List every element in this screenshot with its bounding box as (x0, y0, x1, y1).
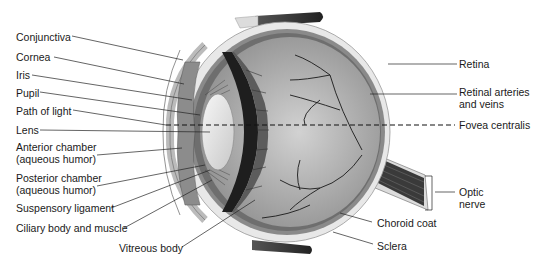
label-suspensory-ligament: Suspensory ligament (16, 202, 114, 214)
label-ciliary-body: Ciliary body and muscle (16, 222, 127, 234)
label-iris: Iris (16, 69, 30, 81)
label-retinal-vessels-sub: and veins (459, 98, 504, 110)
label-cornea: Cornea (16, 51, 50, 63)
label-vitreous-body: Vitreous body (119, 242, 183, 254)
label-posterior-chamber: Posterior chamber (16, 172, 102, 184)
label-fovea-centralis: Fovea centralis (459, 119, 530, 131)
label-lens: Lens (16, 124, 39, 136)
label-retina: Retina (459, 58, 489, 70)
label-posterior-chamber-sub: (aqueous humor) (16, 184, 96, 196)
label-pupil: Pupil (16, 87, 39, 99)
label-path-of-light: Path of light (16, 105, 71, 117)
label-optic-nerve: Optic (459, 186, 484, 198)
label-conjunctiva: Conjunctiva (16, 31, 71, 43)
label-sclera: Sclera (377, 240, 407, 252)
label-choroid-coat: Choroid coat (377, 217, 437, 229)
label-optic-nerve-sub: nerve (459, 198, 485, 210)
label-retinal-vessels: Retinal arteries (459, 86, 530, 98)
label-anterior-chamber-sub: (aqueous humor) (16, 153, 96, 165)
label-anterior-chamber: Anterior chamber (16, 141, 97, 153)
